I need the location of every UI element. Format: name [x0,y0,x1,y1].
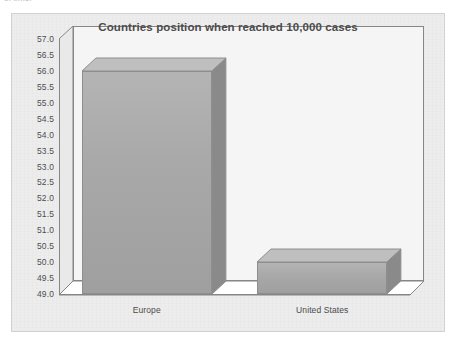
y-axis-tick-label: 51.5 [37,209,54,219]
y-axis-tick-label: 55.5 [37,82,54,92]
y-axis-tick-label: 53.0 [37,162,54,172]
cut-off-text-value: of time. [4,0,124,3]
y-axis-tick-label: 49.5 [37,273,54,283]
bar-united-states[interactable] [257,262,387,294]
y-axis-tick-label: 51.0 [37,225,54,235]
chart-title: Countries position when reached 10,000 c… [12,21,444,33]
y-axis-tick-label: 56.0 [37,66,54,76]
y-axis-tick-label: 53.5 [37,146,54,156]
y-axis-tick-label: 50.5 [37,241,54,251]
y-axis-tick-label: 54.5 [37,114,54,124]
y-axis-tick-label: 55.0 [37,98,54,108]
bar-front-face [257,262,387,294]
y-axis-tick-label: 57.0 [37,34,54,44]
bars-layer [59,39,410,295]
x-axis-label-europe: Europe [133,305,161,315]
y-axis-tick-label: 52.5 [37,177,54,187]
cut-off-text-fragment: of time. [4,0,124,8]
bar-front-face [82,71,212,294]
y-axis-tick-label: 56.5 [37,50,54,60]
x-axis-line [59,294,411,295]
y-axis-tick-label: 54.0 [37,130,54,140]
chart-container: Countries position when reached 10,000 c… [11,13,445,332]
y-axis-tick-label: 49.0 [37,289,54,299]
y-axis-tick-label: 50.0 [37,257,54,267]
y-axis-line [59,39,60,295]
x-axis-label-united-states: United States [296,305,348,315]
y-axis-tick-label: 52.0 [37,193,54,203]
bar-europe[interactable] [82,71,212,294]
plot-area: 49.049.550.050.551.051.552.052.553.053.5… [59,39,410,294]
